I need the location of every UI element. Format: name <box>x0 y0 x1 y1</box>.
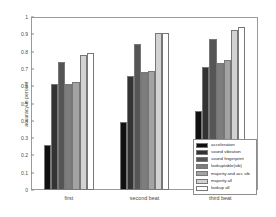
legend-swatch <box>196 157 208 162</box>
legend-label: lookuptable(vib) <box>211 164 242 168</box>
y-axis-tick-label: 0 <box>25 188 28 193</box>
legend-label: sound vibration <box>211 150 241 154</box>
legend-label: lookup all <box>211 186 230 190</box>
legend-item: sound fingerprint <box>196 156 254 163</box>
x-axis-tick-label: third beat <box>209 195 231 201</box>
chart-legend: accelerationsound vibrationsound fingerp… <box>193 139 257 195</box>
legend-label: sound fingerprint <box>211 157 244 161</box>
x-axis-tick-label: first <box>64 195 73 201</box>
legend-label: acceleration <box>211 143 235 147</box>
legend-label: majority and acc vib <box>211 172 250 176</box>
bar-chart-figure: 00.10.20.30.40.50.60.70.80.91 accuracy i… <box>0 0 276 217</box>
legend-swatch <box>196 143 208 148</box>
legend-swatch <box>196 150 208 155</box>
legend-item: majority all <box>196 177 254 184</box>
legend-label: majority all <box>211 179 232 183</box>
y-axis-label-container: accuracy in percent <box>14 17 22 190</box>
legend-item: lookup all <box>196 185 254 192</box>
y-axis-tick-label: 0.1 <box>21 170 28 175</box>
x-axis-tick-label: second beat <box>130 195 159 201</box>
legend-item: lookuptable(vib) <box>196 163 254 170</box>
y-axis-tick-label: 0.9 <box>21 32 28 37</box>
legend-item: acceleration <box>196 142 254 149</box>
y-axis-label: accuracy in percent <box>23 54 29 154</box>
y-axis-tick-label: 1 <box>25 15 28 20</box>
legend-swatch <box>196 186 208 191</box>
legend-item: sound vibration <box>196 149 254 156</box>
legend-swatch <box>196 179 208 184</box>
legend-swatch <box>196 171 208 176</box>
legend-item: majority and acc vib <box>196 170 254 177</box>
legend-swatch <box>196 164 208 169</box>
